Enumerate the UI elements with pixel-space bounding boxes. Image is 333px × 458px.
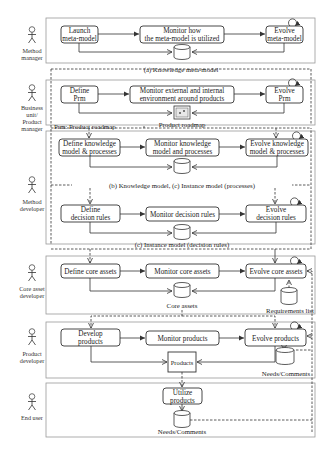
product-roadmap-label: Product roadmap [159,121,206,128]
actor-core-asset-developer-icon [28,265,36,281]
svg-text:Monitor external and internale: Monitor external and internalenvironment… [140,87,225,103]
self-loop-icon [291,322,299,329]
actor-label-core-asset-developer: Core assetdeveloper [19,285,45,299]
database-icon [174,159,190,174]
actor-label-product-developer: Productdeveloper [20,350,44,364]
svg-text:Monitor products: Monitor products [157,335,207,343]
self-loop-icon [289,19,297,26]
svg-text:Monitor decision rules: Monitor decision rules [150,211,215,219]
prm-note: Prm: Product roadmap [54,123,116,130]
needs-comments-label-product: Needs/Comments [262,370,311,377]
database-icon [174,45,190,60]
actor-label-business-unit: Businessunit/Productmanager [21,104,44,132]
caption-knowledge-meta-model: (a) Knowledge meta-model [144,66,219,74]
actor-label-end-user: End user [21,414,43,421]
svg-text:Evolve knowledgemodel & proces: Evolve knowledgemodel & processes [250,140,305,156]
needs-comments-database-icon [174,411,190,428]
needs-comments-label-end-user: Needs/Comments [158,428,207,435]
end-user-process: Utilizeproducts Needs/Comments [158,388,312,435]
products-process: Developproducts Monitor products Evolve … [61,322,311,387]
actor-end-user-icon [28,394,36,410]
actor-label-method-developer: Methoddeveloper [20,198,44,212]
actor-label-method-manager: Methodmanager [21,47,42,61]
svg-text:Evolve core assets: Evolve core assets [249,268,302,276]
svg-text:Monitor knowledgemodel and pro: Monitor knowledgemodel and processes [153,140,213,156]
self-loop-icon [291,257,299,264]
meta-model-process: Launchmeta-model Monitor howthe meta-mod… [61,19,303,74]
actors: Methodmanager Businessunit/Productmanage… [19,27,45,421]
feedback-line [307,271,312,432]
svg-text:Define core assets: Define core assets [64,268,116,276]
actor-business-unit-icon [28,85,36,101]
roadmap-process: DefinePrm Monitor external and internale… [54,79,303,130]
self-loop-icon [291,198,299,205]
svg-text:Developproducts: Developproducts [78,330,103,346]
actor-method-developer-icon [28,177,36,193]
decision-rules-process: Definedecision rules Monitor decision ru… [61,188,306,249]
knowledge-model-process: Define knowledgemodel & processes Monito… [59,128,308,190]
caption-knowledge-instance-model: (b) Knowledge model, (c) Instance model … [109,182,255,190]
core-assets-database-icon [174,283,190,298]
requirements-list-label: Requirements list [266,307,314,314]
actor-method-manager-icon [28,27,36,43]
process-diagram: Methodmanager Businessunit/Productmanage… [0,0,333,458]
svg-text:Define knowledgemodel & proces: Define knowledgemodel & processes [62,140,117,156]
actor-product-developer-icon [28,329,36,345]
svg-text:Monitor core assets: Monitor core assets [154,268,210,276]
needs-comments-database-icon [276,348,294,365]
svg-text:Utilizeproducts: Utilizeproducts [170,389,195,405]
core-assets-label: Core assets [167,302,198,309]
svg-text:Evolve products: Evolve products [252,335,299,343]
roadmap-document-icon [174,106,190,119]
database-icon [174,225,190,240]
svg-text:Products: Products [171,359,194,366]
requirements-list-database-icon [281,288,297,305]
self-loop-icon [293,132,301,139]
caption-instance-model-decision-rules: (c) Instance model (decision rules) [135,241,229,249]
core-assets-process: Define core assets Monitor core assets E… [61,249,314,328]
